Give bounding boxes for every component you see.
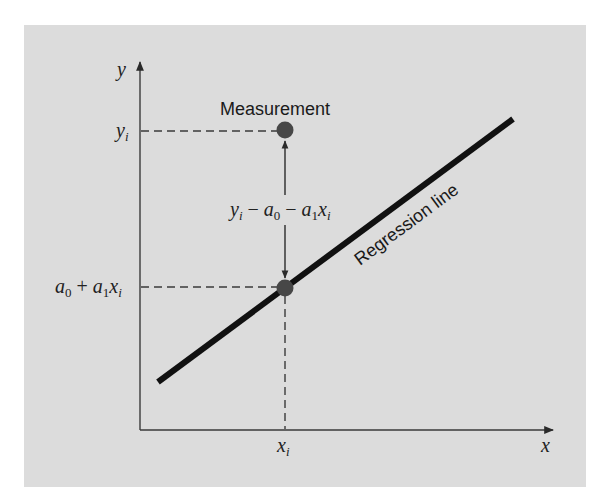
fitted-point xyxy=(277,280,294,297)
diagram-panel xyxy=(24,25,586,487)
y-axis-label: y xyxy=(115,58,126,81)
regression-diagram: y x Measurement yi a0 + a1xi yi − a0 − a… xyxy=(0,0,612,503)
measurement-point xyxy=(277,122,294,139)
measurement-label: Measurement xyxy=(220,99,330,119)
x-axis-label: x xyxy=(540,434,550,456)
